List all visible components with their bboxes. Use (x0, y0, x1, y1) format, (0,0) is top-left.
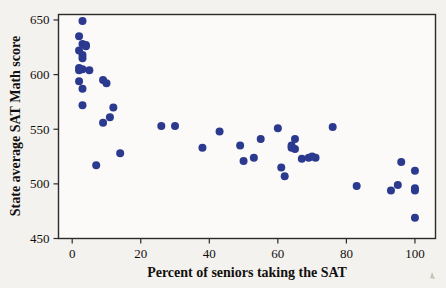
data-point (157, 122, 165, 130)
plot-frame (59, 15, 436, 239)
data-point (116, 149, 124, 157)
x-tick-label-100: 100 (405, 246, 425, 261)
data-point (102, 79, 110, 87)
data-point (198, 144, 206, 152)
data-point (411, 167, 419, 175)
x-tick-label-40: 40 (203, 246, 216, 261)
x-tick-label-0: 0 (69, 246, 76, 261)
data-point (277, 163, 285, 171)
y-tick-label-550: 550 (30, 122, 50, 137)
y-tick-label-650: 650 (30, 12, 50, 27)
data-point (291, 135, 299, 143)
y-tick-label-600: 600 (30, 67, 50, 82)
data-point (99, 119, 107, 127)
data-point (75, 32, 83, 40)
data-point (82, 42, 90, 50)
data-point (78, 54, 86, 62)
data-point (240, 157, 248, 165)
data-point (216, 127, 224, 135)
data-point (75, 77, 83, 85)
data-point (411, 214, 419, 222)
data-point (387, 186, 395, 194)
x-tick-label-60: 60 (271, 246, 284, 261)
data-point (78, 85, 86, 93)
data-point (329, 123, 337, 131)
data-point (106, 113, 114, 121)
data-point (291, 145, 299, 153)
data-point (250, 154, 258, 162)
data-point (281, 172, 289, 180)
y-tick-label-450: 450 (30, 231, 50, 246)
data-point (109, 103, 117, 111)
data-point (236, 142, 244, 150)
data-point (397, 158, 405, 166)
y-tick-label-500: 500 (30, 176, 50, 191)
data-point (171, 122, 179, 130)
data-point (411, 186, 419, 194)
data-point (78, 17, 86, 25)
data-point (78, 101, 86, 109)
data-point (85, 66, 93, 74)
data-point (353, 182, 361, 190)
data-point (312, 154, 320, 162)
x-tick-label-20: 20 (134, 246, 147, 261)
data-point (274, 124, 282, 132)
data-point (394, 181, 402, 189)
data-point (92, 161, 100, 169)
chart-canvas: 450500550600650 020406080100 Percent of … (0, 0, 446, 288)
data-point (75, 66, 83, 74)
data-point (257, 135, 265, 143)
x-axis-title: Percent of seniors taking the SAT (147, 265, 347, 280)
y-axis-title: State average SAT Math score (8, 36, 23, 216)
data-point (298, 155, 306, 163)
x-tick-label-80: 80 (340, 246, 353, 261)
